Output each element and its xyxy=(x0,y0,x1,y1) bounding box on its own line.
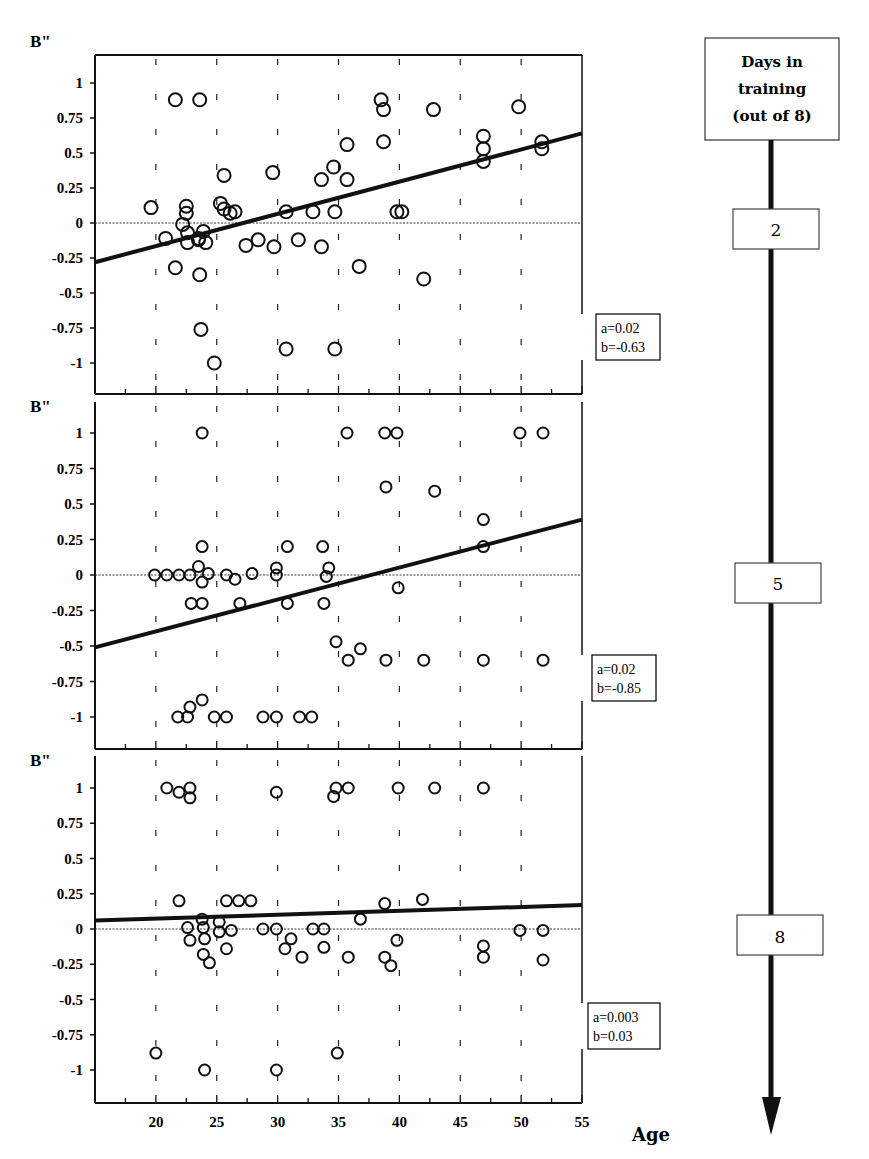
y-tick-label: 1 xyxy=(76,75,84,91)
data-point xyxy=(393,582,404,593)
y-tick-label: 0.75 xyxy=(57,110,83,126)
data-point xyxy=(538,955,549,966)
stat-a: a=0.02 xyxy=(601,321,640,336)
data-point xyxy=(271,787,282,798)
data-point xyxy=(271,924,282,935)
data-point xyxy=(286,933,297,944)
data-point xyxy=(355,643,366,654)
data-point xyxy=(197,428,208,439)
data-point xyxy=(239,239,252,252)
data-point xyxy=(271,1065,282,1076)
data-point xyxy=(341,138,354,151)
data-point xyxy=(478,940,489,951)
y-axis-label: B" xyxy=(30,397,51,416)
data-point xyxy=(226,925,237,936)
data-point xyxy=(318,942,329,953)
y-tick-label: 0.75 xyxy=(57,461,83,477)
data-point xyxy=(203,568,214,579)
stat-a: a=0.02 xyxy=(597,662,636,677)
x-tick-label: 45 xyxy=(453,1114,468,1130)
data-point xyxy=(193,93,206,106)
data-point xyxy=(282,598,293,609)
data-point xyxy=(512,100,525,113)
y-axis-label: B" xyxy=(30,751,51,770)
data-point xyxy=(385,960,396,971)
data-point xyxy=(379,898,390,909)
x-tick-label: 20 xyxy=(148,1114,163,1130)
data-point xyxy=(161,783,172,794)
data-point xyxy=(332,1048,343,1059)
y-tick-label: -0.75 xyxy=(52,674,83,690)
day-marker-2-label: 2 xyxy=(771,220,782,240)
regression-line xyxy=(95,905,582,921)
data-point xyxy=(478,655,489,666)
data-point xyxy=(197,541,208,552)
y-tick-label: -0.75 xyxy=(52,1027,83,1043)
day-marker-5-label: 5 xyxy=(773,574,784,594)
data-point xyxy=(197,694,208,705)
data-point xyxy=(218,169,231,182)
data-point xyxy=(343,952,354,963)
data-point xyxy=(379,428,390,439)
data-point xyxy=(343,783,354,794)
data-point xyxy=(418,655,429,666)
scatter-panels: B"10.750.50.250-0.25-0.5-0.75-1a=0.02b=-… xyxy=(30,32,660,1130)
scatter-panel-day-2: B"10.750.50.250-0.25-0.5-0.75-1a=0.02b=-… xyxy=(30,32,660,394)
y-tick-label: -0.25 xyxy=(52,956,83,972)
y-axis-label: B" xyxy=(30,32,51,51)
data-point xyxy=(306,205,319,218)
data-point xyxy=(194,323,207,336)
data-point xyxy=(478,514,489,525)
stat-a: a=0.003 xyxy=(593,1010,639,1025)
data-point xyxy=(199,933,210,944)
timeline-arrow-head-icon xyxy=(762,1097,781,1135)
data-point xyxy=(514,925,525,936)
day-marker-8-label: 8 xyxy=(775,927,786,947)
x-tick-label: 50 xyxy=(514,1114,529,1130)
y-tick-label: 0 xyxy=(76,567,84,583)
timeline-header-line2: training xyxy=(738,80,807,98)
timeline-header-line1: Days in xyxy=(741,53,803,71)
data-point xyxy=(380,481,391,492)
data-point xyxy=(292,233,305,246)
y-tick-label: -0.5 xyxy=(59,638,83,654)
data-point xyxy=(343,655,354,666)
data-point xyxy=(391,935,402,946)
y-tick-label: 1 xyxy=(76,425,84,441)
data-point xyxy=(429,486,440,497)
timeline-header-line3: (out of 8) xyxy=(732,107,811,125)
stat-b: b=-0.85 xyxy=(597,681,641,696)
regression-line xyxy=(95,520,582,648)
data-point xyxy=(342,428,353,439)
data-point xyxy=(233,895,244,906)
data-point xyxy=(294,712,305,723)
x-tick-label: 25 xyxy=(209,1114,224,1130)
data-point xyxy=(258,712,269,723)
regression-line xyxy=(95,133,582,262)
data-point xyxy=(538,428,549,439)
y-tick-label: 0.25 xyxy=(57,886,83,902)
data-point xyxy=(271,712,282,723)
data-point xyxy=(221,943,232,954)
data-point xyxy=(417,273,430,286)
y-tick-label: 0.5 xyxy=(64,145,83,161)
data-point xyxy=(353,260,366,273)
data-point xyxy=(318,598,329,609)
data-point xyxy=(538,925,549,936)
data-point xyxy=(169,261,182,274)
scatter-panel-day-5: B"10.750.50.250-0.25-0.5-0.75-1a=0.02b=-… xyxy=(30,397,656,749)
data-point xyxy=(150,1048,161,1059)
data-point xyxy=(266,166,279,179)
y-tick-label: 0.25 xyxy=(57,180,83,196)
y-tick-label: 0.5 xyxy=(64,496,83,512)
y-tick-label: -0.5 xyxy=(59,285,83,301)
data-point xyxy=(184,702,195,713)
data-point xyxy=(221,712,232,723)
x-tick-label: 30 xyxy=(270,1114,285,1130)
data-point xyxy=(252,233,265,246)
data-point xyxy=(315,173,328,186)
data-point xyxy=(514,428,525,439)
data-point xyxy=(355,914,366,925)
data-point xyxy=(478,952,489,963)
stat-b: b=0.03 xyxy=(593,1029,632,1044)
